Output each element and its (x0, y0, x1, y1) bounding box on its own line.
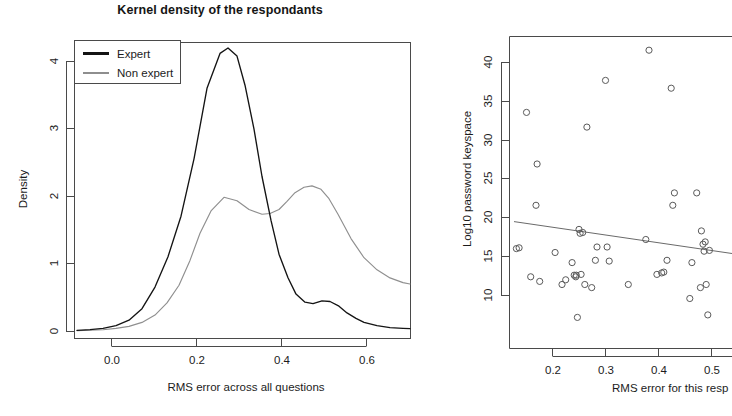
page-title: Kernel density of the respondants (0, 3, 440, 17)
scatter-point (537, 278, 543, 284)
scatter-points (513, 47, 712, 320)
right-ytick-25: 25 (482, 166, 494, 190)
right-xtick-2: 0.4 (641, 364, 677, 376)
legend-line-non-expert-icon (83, 72, 109, 74)
scatter-point (584, 124, 590, 130)
scatter-point (606, 258, 612, 264)
left-xtick-1: 0.2 (179, 354, 215, 366)
scatter-point (523, 109, 529, 115)
scatter-point (589, 285, 595, 291)
scatter-point (664, 257, 670, 263)
density-curve-non-expert (77, 186, 410, 331)
scatter-point (671, 190, 677, 196)
left-xtick-3: 0.6 (349, 354, 385, 366)
legend-item-non-expert: Non expert (75, 63, 180, 82)
right-y-axis-label: Log10 password keyspace (461, 105, 473, 253)
legend-line-expert-icon (83, 52, 109, 55)
scatter-point (694, 190, 700, 196)
right-x-axis (553, 348, 732, 357)
right-plot-frame (510, 37, 732, 349)
legend-item-expert: Expert (75, 44, 180, 63)
right-xtick-3: 0.5 (694, 364, 730, 376)
right-y-axis (501, 62, 509, 296)
scatter-point (625, 281, 631, 287)
kernel-density-plot: Kernel density of the respondants (0, 0, 440, 416)
keyspace-scatter-plot: 40 35 30 25 20 15 10 0.2 0.3 0.4 0.5 RMS… (440, 0, 732, 416)
regression-fit-line (514, 222, 732, 254)
scatter-point (528, 274, 534, 280)
left-x-axis (112, 338, 367, 347)
density-curve-expert (77, 48, 410, 330)
scatter-point (569, 260, 575, 266)
right-ytick-35: 35 (482, 89, 494, 113)
left-plot-frame (75, 43, 411, 339)
legend: Expert Non expert (74, 40, 181, 84)
scatter-point (705, 312, 711, 318)
right-ytick-30: 30 (482, 128, 494, 152)
right-ytick-10: 10 (482, 283, 494, 307)
scatter-point (697, 285, 703, 291)
left-y-axis-label: Density (17, 154, 29, 224)
scatter-point (698, 228, 704, 234)
left-ytick-4: 4 (48, 51, 60, 71)
right-ytick-40: 40 (482, 50, 494, 74)
scatter-point (687, 295, 693, 301)
left-x-axis-label: RMS error across all questions (126, 381, 366, 393)
scatter-point (574, 314, 580, 320)
scatter-point (582, 281, 588, 287)
scatter-point (533, 202, 539, 208)
left-ytick-3: 3 (48, 118, 60, 138)
scatter-point (594, 244, 600, 250)
scatter-point (563, 277, 569, 283)
right-ytick-15: 15 (482, 244, 494, 268)
scatter-point (689, 260, 695, 266)
scatter-point (661, 269, 667, 275)
left-ytick-1: 1 (48, 253, 60, 273)
right-ytick-20: 20 (482, 205, 494, 229)
scatter-point (604, 244, 610, 250)
left-xtick-0: 0.0 (94, 354, 130, 366)
scatter-point (670, 202, 676, 208)
left-ytick-2: 2 (48, 186, 60, 206)
scatter-point (552, 249, 558, 255)
right-xtick-1: 0.3 (588, 364, 624, 376)
scatter-point (703, 281, 709, 287)
right-xtick-0: 0.2 (535, 364, 571, 376)
scatter-point (668, 85, 674, 91)
legend-label-non-expert: Non expert (117, 67, 173, 79)
right-x-axis-label: RMS error for this resp (612, 382, 728, 394)
scatter-point (643, 236, 649, 242)
scatter-point (592, 257, 598, 263)
scatter-point (602, 77, 608, 83)
left-y-axis (66, 61, 74, 332)
scatter-point (534, 161, 540, 167)
legend-label-expert: Expert (117, 48, 150, 60)
scatter-point (646, 47, 652, 53)
left-xtick-2: 0.4 (264, 354, 300, 366)
figure-canvas: Kernel density of the respondants (0, 0, 732, 416)
left-ytick-0: 0 (48, 321, 60, 341)
